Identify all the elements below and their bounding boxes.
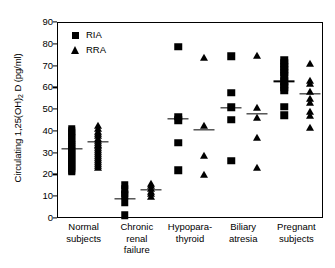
plot-area: RIA RRA (57, 22, 323, 218)
mean-line (247, 113, 268, 114)
chart-figure: Circulating 1,25(OH)2 D (pg/ml) 01020304… (0, 0, 335, 268)
data-point-ria (227, 116, 235, 124)
data-point-rra (147, 192, 155, 199)
data-point-ria (227, 52, 235, 60)
data-point-ria (121, 211, 129, 219)
mean-line (114, 198, 135, 199)
data-point-rra (253, 114, 261, 121)
y-tick-label: 10 (33, 191, 53, 201)
y-tick-label: 80 (33, 39, 53, 49)
x-category-label: Hypopara- thyroid (168, 221, 212, 244)
x-axis-category-labels: Normal subjectsChronic renal failureHypo… (57, 221, 323, 267)
mean-line (168, 118, 189, 119)
data-point-rra (253, 134, 261, 141)
mean-line (61, 148, 82, 149)
data-point-rra (253, 164, 261, 171)
x-category-label: Pregnant subjects (277, 221, 316, 244)
y-axis-title: Circulating 1,25(OH)2 D (pg/ml) (10, 8, 26, 228)
data-point-rra (306, 80, 314, 87)
data-point-ria (281, 87, 289, 95)
mean-line (300, 93, 321, 94)
y-tick-label: 0 (33, 213, 53, 223)
y-axis-title-text-part2: D (pg/ml) (12, 53, 23, 94)
data-point-ria (227, 157, 235, 165)
y-tick-label: 70 (33, 61, 53, 71)
triangle-marker-icon (68, 46, 82, 54)
x-category-label: Normal subjects (66, 221, 101, 244)
data-point-ria (68, 168, 76, 176)
mean-line (87, 141, 108, 142)
data-point-rra (94, 164, 102, 171)
y-tick-label: 30 (33, 148, 53, 158)
legend: RIA RRA (68, 28, 106, 58)
legend-label-ria: RIA (86, 30, 102, 40)
x-category-label: Biliary atresia (229, 221, 258, 244)
data-point-ria (281, 103, 289, 111)
data-point-ria (174, 139, 182, 147)
y-tick-label: 50 (33, 104, 53, 114)
data-point-rra (306, 99, 314, 106)
data-point-ria (281, 111, 289, 119)
y-axis-tick-labels: 0102030405060708090 (31, 22, 53, 218)
data-point-rra (200, 171, 208, 178)
data-point-ria (227, 89, 235, 97)
data-point-rra (253, 52, 261, 59)
mean-line (140, 189, 161, 190)
data-point-rra (306, 124, 314, 131)
y-tick-label: 20 (33, 170, 53, 180)
y-tick-label: 40 (33, 126, 53, 136)
data-point-rra (306, 60, 314, 67)
data-point-rra (200, 54, 208, 61)
data-point-rra (253, 104, 261, 111)
square-marker-icon (68, 32, 82, 39)
data-point-rra (200, 122, 208, 129)
mean-line (221, 107, 242, 108)
mean-line (194, 129, 215, 130)
data-point-rra (200, 152, 208, 159)
y-tick-label: 90 (33, 17, 53, 27)
mean-line (274, 81, 295, 82)
y-axis-title-text-part1: Circulating 1,25(OH) (12, 98, 23, 183)
data-point-ria (174, 43, 182, 51)
data-point-ria (174, 166, 182, 174)
x-category-label: Chronic renal failure (120, 221, 153, 256)
legend-entry-ria: RIA (68, 28, 106, 42)
data-point-rra (306, 112, 314, 119)
y-axis-title-subscript: 2 (17, 94, 24, 98)
legend-label-rra: RRA (86, 45, 106, 55)
legend-entry-rra: RRA (68, 43, 106, 57)
y-tick-label: 60 (33, 83, 53, 93)
